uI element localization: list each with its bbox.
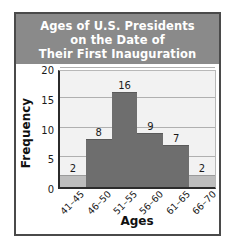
plot-axes: 2816972 <box>58 70 216 189</box>
bar[interactable] <box>112 92 138 187</box>
y-axis-tick-label: 10 <box>41 124 54 135</box>
plot-region: Frequency 05101520 2816972 41–4546–5051–… <box>16 64 219 234</box>
y-axis-tick-label: 20 <box>41 65 54 76</box>
chart-title-banner: Ages of U.S. Presidents on the Date of T… <box>16 14 219 64</box>
x-axis-label: Ages <box>58 214 216 228</box>
y-axis-tick-labels: 05101520 <box>34 64 56 194</box>
y-axis-label-text: Frequency <box>19 98 33 168</box>
chart-title-line-3: Their First Inauguration <box>39 47 196 61</box>
bar[interactable] <box>60 175 86 187</box>
gridline <box>60 67 215 68</box>
y-axis-tick-label: 15 <box>41 94 54 105</box>
bar-slot: 9 <box>137 71 163 187</box>
bar-value-label: 7 <box>163 133 189 144</box>
bar-value-label: 2 <box>189 163 215 174</box>
y-axis-tick-label: 5 <box>48 154 54 165</box>
bar-value-label: 16 <box>112 80 138 91</box>
bar-slot: 2 <box>189 71 215 187</box>
x-axis-tick-label-text: 41–45 <box>58 190 84 216</box>
bar-slot: 8 <box>86 71 112 187</box>
x-axis-tick-label-text: 46–50 <box>84 190 110 216</box>
y-axis-label: Frequency <box>18 80 34 186</box>
bar-slot: 16 <box>112 71 138 187</box>
bar[interactable] <box>163 145 189 187</box>
chart-figure: Ages of U.S. Presidents on the Date of T… <box>14 12 221 236</box>
x-axis-tick-label-text: 61–65 <box>163 190 189 216</box>
bar-slot: 2 <box>60 71 86 187</box>
chart-title-line-2: on the Date of <box>70 33 165 47</box>
y-axis-tick-label: 0 <box>48 184 54 195</box>
bar-value-label: 9 <box>137 121 163 132</box>
chart-title-line-1: Ages of U.S. Presidents <box>40 19 195 33</box>
x-axis-tick-label-text: 66–70 <box>190 190 216 216</box>
bar-series: 2816972 <box>60 71 215 187</box>
bar-value-label: 8 <box>86 127 112 138</box>
bar-value-label: 2 <box>60 163 86 174</box>
bar-slot: 7 <box>163 71 189 187</box>
bar[interactable] <box>86 139 112 187</box>
bar[interactable] <box>189 175 215 187</box>
bar[interactable] <box>137 133 163 187</box>
x-axis-tick-label-text: 56–60 <box>137 190 163 216</box>
x-axis-tick-label-text: 51–55 <box>111 190 137 216</box>
